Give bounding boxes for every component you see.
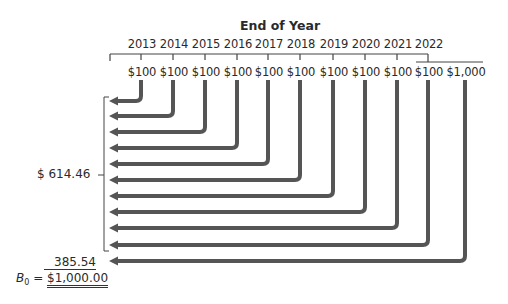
cash-flow-label: $100	[415, 65, 443, 79]
arrowhead-icon	[109, 176, 118, 185]
year-label: 2014	[160, 37, 188, 51]
cash-flow-label: $100	[160, 65, 188, 79]
coupon-pv-bracket	[104, 97, 109, 251]
arrowhead-icon	[109, 97, 118, 106]
diagram-title: End of Year	[240, 19, 320, 33]
arrowhead-icon	[109, 208, 118, 217]
arrowhead-icon	[109, 160, 118, 169]
discount-arrow	[116, 80, 173, 116]
year-label: 2013	[128, 37, 156, 51]
bond-value-symbol: B	[16, 271, 24, 285]
arrowhead-icon	[109, 128, 118, 137]
bond-value-line: B0 = $1,000.00	[16, 271, 96, 290]
year-label: 2018	[287, 37, 315, 51]
discount-arrow	[116, 80, 268, 164]
year-label: 2022	[415, 37, 443, 51]
cash-flow-label: $100	[384, 65, 412, 79]
year-label: 2016	[224, 37, 252, 51]
discount-arrow	[116, 80, 465, 261]
pv-coupons-label: $ 614.46	[37, 167, 90, 181]
pv-principal-label: 385.54	[44, 255, 96, 270]
cash-flow-label: $1,000	[446, 65, 485, 79]
cash-flow-label: $100	[224, 65, 252, 79]
cash-flow-label: $100	[287, 65, 315, 79]
year-label: 2019	[320, 37, 348, 51]
year-label: 2020	[352, 37, 380, 51]
cash-flow-label: $100	[128, 65, 156, 79]
discount-arrow	[116, 80, 141, 101]
arrowhead-icon	[109, 192, 118, 201]
arrowhead-icon	[109, 112, 118, 121]
year-label: 2021	[384, 37, 412, 51]
discount-arrow	[116, 80, 397, 228]
cash-flow-label: $100	[320, 65, 348, 79]
bond-value-equals: =	[29, 271, 47, 285]
cash-flow-label: $100	[255, 65, 283, 79]
cash-flow-label: $100	[352, 65, 380, 79]
arrowhead-icon	[109, 257, 118, 266]
bond-value: $1,000.00	[47, 271, 108, 288]
year-label: 2015	[192, 37, 220, 51]
discount-arrow	[116, 80, 205, 132]
arrowhead-icon	[109, 144, 118, 153]
year-label: 2017	[255, 37, 283, 51]
cash-flow-label: $100	[192, 65, 220, 79]
arrowhead-icon	[109, 224, 118, 233]
arrowhead-icon	[109, 241, 118, 250]
